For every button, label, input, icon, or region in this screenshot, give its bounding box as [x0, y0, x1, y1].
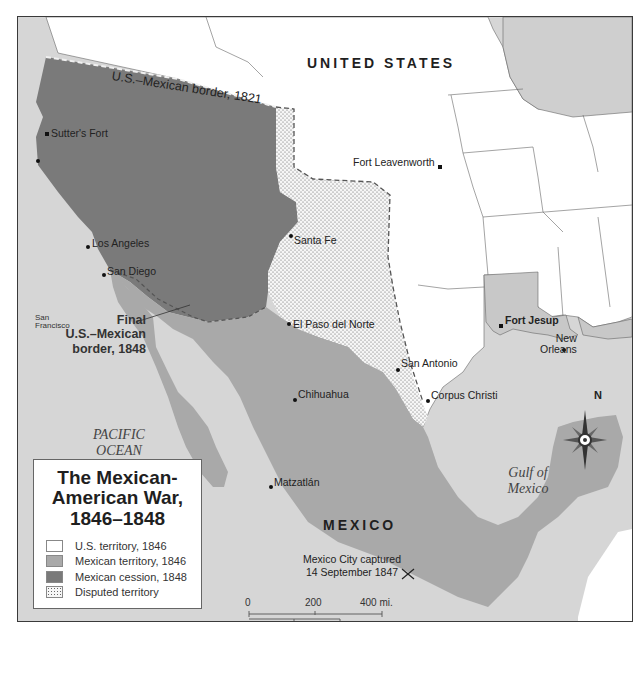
final-border-line3: border, 1848: [58, 342, 146, 356]
map-frame: UNITED STATES MEXICO U.S.–Mexican border…: [17, 16, 633, 622]
label-matzatlan: Matzatlán: [274, 477, 320, 488]
label-san-diego: San Diego: [107, 266, 156, 277]
legend-item-us-territory: U.S. territory, 1846: [46, 538, 201, 554]
label-san-francisco: San Francisco: [35, 314, 70, 330]
swatch-mexican-territory: [46, 555, 63, 567]
label-santa-fe: Santa Fe: [294, 235, 337, 246]
swatch-mexican-cession: [46, 571, 63, 583]
legend-box: The Mexican- American War, 1846–1848 U.S…: [33, 459, 202, 609]
label-san-antonio: San Antonio: [401, 358, 458, 369]
swatch-disputed: [46, 586, 63, 598]
legend-item-mexican-cession: Mexican cession, 1848: [46, 569, 201, 585]
legend-item-disputed: Disputed territory: [46, 584, 201, 600]
label-gulf-of-mexico: Gulf of Mexico: [488, 465, 568, 497]
label-new-orleans: New Orleans: [540, 333, 577, 355]
label-fort-leavenworth: Fort Leavenworth: [353, 157, 435, 168]
swatch-us-territory: [46, 540, 63, 552]
label-sutters-fort: Sutter's Fort: [51, 128, 108, 139]
label-mexico: MEXICO: [323, 517, 396, 533]
label-final-border: Final U.S.–Mexican border, 1848: [58, 313, 146, 356]
scale-mi-0: 0: [245, 597, 251, 608]
label-united-states: UNITED STATES: [307, 55, 455, 71]
label-chihuahua: Chihuahua: [298, 389, 349, 400]
scale-mi-200: 200: [305, 597, 322, 608]
legend-list: U.S. territory, 1846 Mexican territory, …: [34, 538, 201, 600]
label-corpus-christi: Corpus Christi: [431, 390, 498, 401]
label-mexico-city-captured: Mexico City captured 14 September 1847: [298, 553, 406, 578]
map-title: The Mexican- American War, 1846–1848: [34, 468, 201, 529]
compass-north-label: N: [594, 389, 602, 401]
label-el-paso: El Paso del Norte: [293, 319, 375, 330]
label-los-angeles: Los Angeles: [92, 238, 149, 249]
scale-mi-400: 400 mi.: [360, 597, 393, 608]
label-pacific-ocean: PACIFIC OCEAN: [64, 427, 174, 459]
final-border-line2: U.S.–Mexican: [58, 327, 146, 341]
final-border-line1: Final: [58, 313, 146, 327]
legend-item-mexican-territory: Mexican territory, 1846: [46, 553, 201, 569]
label-fort-jesup: Fort Jesup: [505, 315, 559, 326]
